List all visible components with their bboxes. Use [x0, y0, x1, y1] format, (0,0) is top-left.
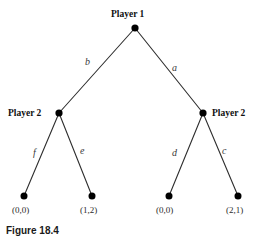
figure-container: Player 1 Player 2 Player 2 b a f e d c (…	[0, 0, 271, 244]
node-terminal-4	[235, 193, 242, 200]
node-root	[131, 24, 138, 31]
payoff-label-2: (1,2)	[80, 205, 97, 215]
edge-label-f: f	[33, 147, 36, 158]
payoff-label-1: (0,0)	[12, 205, 29, 215]
edge-c	[203, 113, 238, 196]
edge-e	[59, 113, 92, 196]
node-right-p2	[199, 109, 206, 116]
edge-label-e: e	[80, 145, 84, 156]
node-label-player2-right: Player 2	[212, 108, 245, 119]
node-terminal-3	[166, 193, 173, 200]
node-terminal-1	[21, 193, 28, 200]
edge-f	[24, 113, 59, 196]
node-terminal-2	[89, 193, 96, 200]
node-left-p2	[55, 109, 62, 116]
edge-label-b: b	[85, 56, 90, 67]
node-label-player1: Player 1	[111, 9, 144, 20]
edge-label-c: c	[222, 145, 226, 156]
edge-b	[59, 28, 135, 113]
edge-label-d: d	[172, 147, 177, 158]
node-label-player2-left: Player 2	[8, 108, 41, 119]
figure-caption: Figure 18.4	[6, 225, 59, 237]
tree-nodes	[21, 24, 242, 199]
payoff-label-3: (0,0)	[156, 205, 173, 215]
edge-a	[135, 28, 203, 113]
edge-label-a: a	[172, 62, 177, 73]
payoff-label-4: (2,1)	[226, 205, 243, 215]
